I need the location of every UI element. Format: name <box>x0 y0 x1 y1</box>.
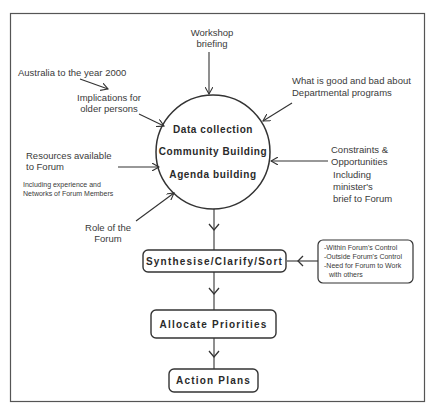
input-implications-line2: older persons <box>80 103 138 114</box>
input-departmental-line1: What is good and bad about <box>292 75 411 86</box>
input-constraints-note-line2: minister's <box>333 181 373 192</box>
side-box-line1: -Within Forum's Control <box>324 244 398 251</box>
input-resources-note-line1: Including experience and <box>23 181 101 189</box>
arrow-australia <box>80 79 108 89</box>
arrow-role <box>136 193 174 221</box>
step-action-plans-label: Action Plans <box>176 375 251 386</box>
center-line-community-building: Community Building <box>159 146 268 157</box>
input-departmental-line2: Departmental programs <box>292 87 392 98</box>
input-workshop-line1: Workshop <box>191 27 234 38</box>
input-constraints-note-line3: brief to Forum <box>333 193 392 204</box>
input-australia: Australia to the year 2000 <box>18 67 126 78</box>
input-resources-line2: to Forum <box>26 161 64 172</box>
input-resources-line1: Resources available <box>26 150 112 161</box>
diagram-canvas: Data collection Community Building Agend… <box>0 0 435 411</box>
input-constraints-line1: Constraints & <box>331 144 389 155</box>
input-role-line1: Role of the <box>85 222 131 233</box>
input-resources-note-line2: Networks of Forum Members <box>23 190 114 197</box>
center-line-data-collection: Data collection <box>173 124 253 135</box>
side-box-line2: -Outside Forum's Control <box>324 253 402 260</box>
center-line-agenda-building: Agenda building <box>169 169 256 180</box>
arrow-departmental <box>263 103 292 121</box>
input-constraints-line2: Opportunities <box>331 156 388 167</box>
input-constraints-note-line1: Including <box>333 169 371 180</box>
arrow-implications <box>139 114 164 126</box>
step-synthesise-label: Synthesise/Clarify/Sort <box>146 256 283 267</box>
input-role-line2: Forum <box>94 233 122 244</box>
input-implications-line1: Implications for <box>77 92 141 103</box>
input-workshop-line2: briefing <box>196 38 227 49</box>
step-allocate-label: Allocate Priorities <box>160 319 268 330</box>
side-box-line3: -Need for Forum to Work <box>324 262 402 269</box>
side-box-line4: with others <box>328 271 363 278</box>
